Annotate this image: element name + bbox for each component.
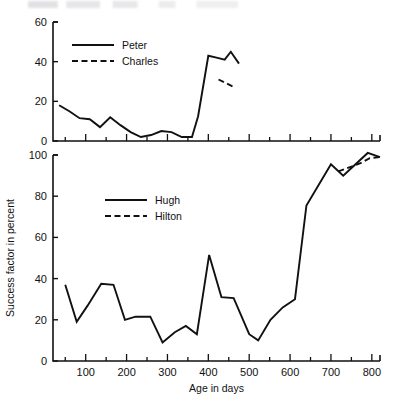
- legend-label-charles: Charles: [122, 55, 158, 67]
- upper-panel: 0204060PeterCharles: [35, 16, 380, 147]
- y-tick-label: 60: [35, 231, 47, 243]
- series-line-charles: [219, 80, 235, 88]
- x-axis-title: Age in days: [189, 382, 244, 394]
- x-tick-label: 300: [158, 366, 176, 378]
- x-tick-label: 500: [240, 366, 258, 378]
- x-tick-label: 100: [77, 366, 95, 378]
- y-tick-label: 20: [35, 314, 47, 326]
- legend-label-hilton: Hilton: [155, 210, 182, 222]
- y-tick-label: 60: [35, 16, 47, 28]
- x-tick-label: 400: [199, 366, 217, 378]
- y-tick-label: 40: [35, 56, 47, 68]
- axis-spine: [53, 22, 380, 141]
- chart-figure: 0204060PeterCharles020406080100100200300…: [0, 0, 402, 406]
- y-tick-label: 100: [29, 149, 47, 161]
- y-axis-title: Success factor in percent: [4, 199, 16, 317]
- x-tick-label: 200: [117, 366, 135, 378]
- y-tick-label: 40: [35, 273, 47, 285]
- y-tick-label: 0: [41, 355, 47, 367]
- legend-label-peter: Peter: [122, 39, 148, 51]
- series-line-hugh: [65, 153, 380, 343]
- y-tick-label: 20: [35, 95, 47, 107]
- two-panel-line-chart: 0204060PeterCharles020406080100100200300…: [0, 0, 402, 406]
- axis-spine: [53, 155, 380, 361]
- y-tick-label: 80: [35, 190, 47, 202]
- x-tick-label: 800: [363, 366, 381, 378]
- x-tick-label: 600: [281, 366, 299, 378]
- lower-panel: 020406080100100200300400500600700800Hugh…: [29, 149, 381, 378]
- legend-label-hugh: Hugh: [155, 194, 180, 206]
- y-tick-label: 0: [41, 135, 47, 147]
- series-line-hilton: [338, 157, 380, 171]
- x-tick-label: 700: [322, 366, 340, 378]
